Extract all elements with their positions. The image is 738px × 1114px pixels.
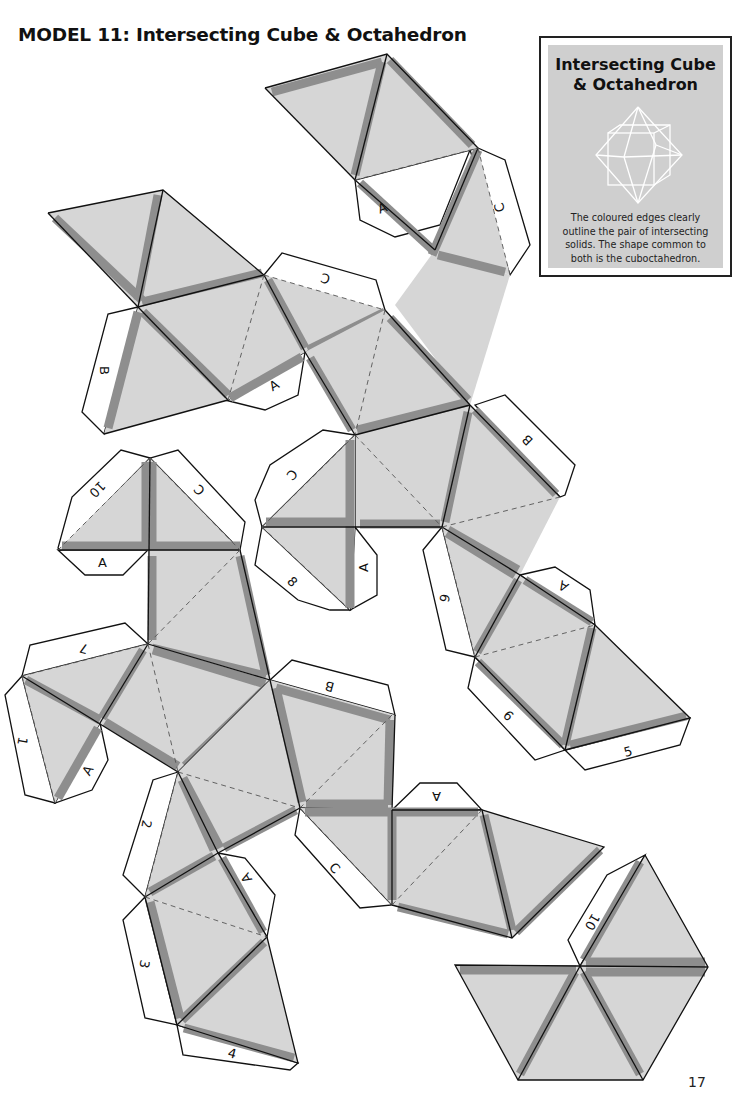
page-number: 17 (688, 1074, 706, 1090)
piece-right-chain: 6 A 6 5 (423, 527, 690, 770)
info-box-title: Intersecting Cube & Octahedron (548, 55, 723, 95)
info-box-text-line: The coloured edges clearly (552, 211, 719, 225)
wireframe-cube-octahedron-icon (578, 105, 696, 205)
info-box-text-line: both is the cuboctahedron. (552, 252, 719, 266)
info-box-text-line: outline the pair of intersecting (552, 225, 719, 239)
info-box-panel: Intersecting Cube & Octahedron The co (548, 45, 723, 268)
info-box-title-line: & Octahedron (548, 75, 723, 95)
info-box-description: The coloured edges clearly outline the p… (552, 211, 719, 265)
tab-label: A (432, 789, 441, 804)
info-box: Intersecting Cube & Octahedron The co (539, 36, 732, 277)
tab-label: A (98, 555, 107, 570)
tab-label: B (97, 366, 112, 375)
info-box-text-line: solids. The shape common to (552, 238, 719, 252)
info-box-title-line: Intersecting Cube (548, 55, 723, 75)
tab-label: A (356, 563, 371, 572)
